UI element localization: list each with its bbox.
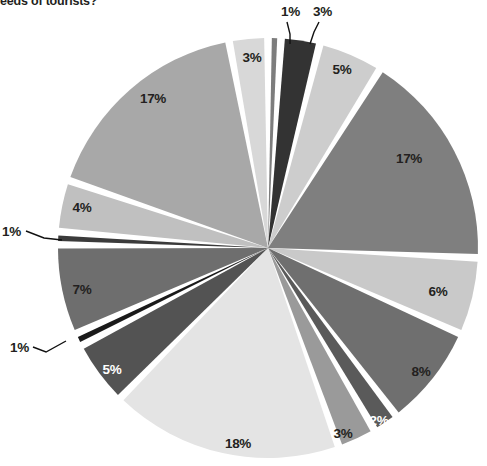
pie-slice-callout-label: 1% (2, 224, 21, 239)
callout-leader-line (33, 341, 66, 352)
pie-chart-svg: 5%17%6%8%2%3%18%5%7%4%17%3%1%3%1%1% (0, 0, 487, 466)
pie-slice-label: 3% (334, 426, 353, 441)
pie-slice-label: 17% (396, 151, 422, 166)
pie-slice-label: 17% (140, 91, 166, 106)
pie-slice-callout-label: 3% (313, 4, 332, 19)
pie-slice-label: 5% (103, 362, 122, 377)
pie-slice-label: 2% (370, 413, 389, 428)
pie-slice-label: 8% (412, 364, 431, 379)
pie-slice-callout-label: 1% (281, 4, 300, 19)
pie-slice-label: 5% (333, 62, 352, 77)
callout-leader-line (26, 231, 62, 240)
pie-slice-label: 18% (225, 436, 251, 451)
question-text: eeds of tourists? (0, 0, 97, 8)
pie-chart-figure: eeds of tourists? 5%17%6%8%2%3%18%5%7%4%… (0, 0, 487, 466)
pie-slice-callout-label: 1% (10, 340, 29, 355)
callout-leader-line (310, 22, 319, 44)
pie-slice-label: 6% (429, 284, 448, 299)
pie-slice-label: 3% (243, 50, 262, 65)
pie-slice-label: 4% (73, 200, 92, 215)
pie-slice-label: 7% (73, 282, 92, 297)
